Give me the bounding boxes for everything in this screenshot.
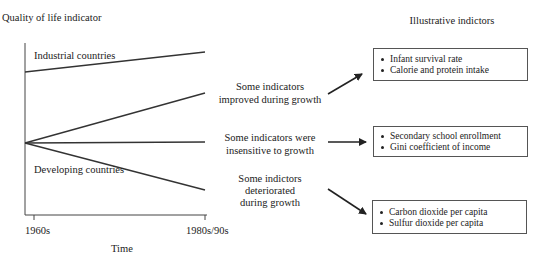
x-axis-label: Time xyxy=(111,243,133,254)
indicator-box-deteriorated: Carbon dioxide per capita Sulfur dioxide… xyxy=(372,200,527,234)
label-line: improved during growth xyxy=(219,93,322,106)
y-axis-label: Quality of life indicator xyxy=(2,12,101,23)
x-tick-1960s: 1960s xyxy=(25,225,50,236)
indicator-box-insensitive: Secondary school enrollment Gini coeffic… xyxy=(373,126,528,157)
indicator-item: Infant survival rate xyxy=(374,54,527,65)
arrow-improved-icon xyxy=(328,74,362,94)
indicator-item: Sulfur dioxide per capita xyxy=(373,218,526,229)
improved-line xyxy=(25,93,205,143)
developing-countries-label: Developing countries xyxy=(34,164,124,175)
right-title: Illustrative indictors xyxy=(410,15,495,26)
label-line: Some indictors xyxy=(238,173,301,185)
category-label-improved: Some indicators improved during growth xyxy=(219,80,322,106)
category-label-deteriorated: Some indictors deteriorated during growt… xyxy=(238,173,301,209)
label-line: Some indicators xyxy=(219,80,322,93)
x-axis xyxy=(25,215,207,220)
label-line: deteriorated xyxy=(238,185,301,197)
indicator-item: Carbon dioxide per capita xyxy=(373,207,526,218)
label-line: insensitive to growth xyxy=(225,144,316,157)
indicator-box-improved: Infant survival rate Calorie and protein… xyxy=(373,48,528,81)
label-line: during growth xyxy=(238,197,301,209)
indicator-item: Calorie and protein intake xyxy=(374,65,527,76)
industrial-countries-label: Industrial countries xyxy=(34,50,115,61)
insensitive-line xyxy=(25,142,205,143)
arrow-deteriorated-icon xyxy=(328,189,366,214)
category-label-insensitive: Some indicators were insensitive to grow… xyxy=(225,131,316,157)
indicator-item: Secondary school enrollment xyxy=(374,131,527,142)
x-tick-1980s-90s: 1980s/90s xyxy=(186,225,229,236)
indicator-item: Gini coefficient of income xyxy=(374,142,527,153)
label-line: Some indicators were xyxy=(225,131,316,144)
